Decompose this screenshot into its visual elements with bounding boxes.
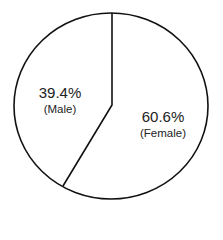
female-name: (Female) <box>133 127 193 140</box>
male-percent: 39.4% <box>34 84 86 101</box>
slice-label-male: 39.4% (Male) <box>34 84 86 116</box>
male-name: (Male) <box>34 103 86 116</box>
slice-label-female: 60.6% (Female) <box>133 108 193 140</box>
female-percent: 60.6% <box>133 108 193 125</box>
